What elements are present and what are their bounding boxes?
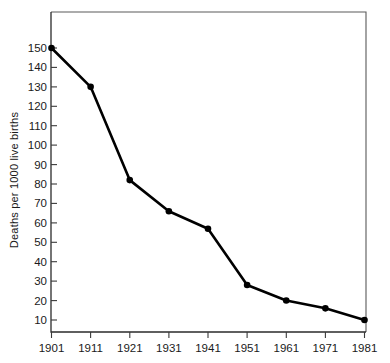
data-point [244,282,251,289]
x-tick-label: 1911 [78,342,103,354]
y-tick-label: 40 [34,256,47,268]
y-axis-title: Deaths per 1000 live births [8,112,20,249]
y-tick-label: 140 [28,61,47,73]
data-point [126,177,133,184]
y-tick-label: 70 [34,197,47,209]
data-point [87,84,94,91]
data-point [166,208,173,215]
y-tick-label: 20 [34,295,47,307]
y-tick-label: 110 [29,120,47,132]
x-tick-label: 1951 [234,342,260,354]
y-tick-label: 100 [28,139,47,151]
x-tick-label: 1941 [195,342,221,354]
y-tick-label: 90 [34,159,47,171]
y-tick-label: 10 [34,314,47,326]
y-tick-label: 60 [34,217,47,229]
data-point [48,45,55,52]
x-tick-label: 1901 [39,342,65,354]
infant-mortality-line-chart: 150 140 130 120 110 100 90 80 70 60 50 4… [0,0,390,363]
data-point [205,225,212,232]
data-point [283,297,290,304]
y-tick-label: 80 [34,178,47,190]
x-tick-label: 1921 [117,342,143,354]
x-axis-tick-labels: 1901 1911 1921 1931 1941 1951 1961 1971 … [39,342,378,354]
data-point [361,317,368,324]
y-tick-label: 150 [28,42,47,54]
x-tick-label: 1961 [274,342,300,354]
y-tick-label: 30 [34,275,47,287]
x-tick-label: 1931 [156,342,182,354]
y-tick-label: 120 [28,100,47,112]
y-tick-label: 50 [34,236,47,248]
data-point [322,305,329,312]
y-tick-label: 130 [28,81,47,93]
x-tick-label: 1981 [352,342,378,354]
x-tick-label: 1971 [313,342,339,354]
